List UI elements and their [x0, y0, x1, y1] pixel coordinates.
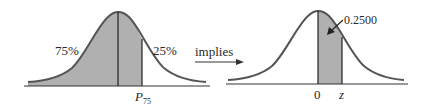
left-25-percent-label: 25% [153, 43, 177, 58]
implies-connector: implies [195, 44, 244, 65]
left-75-percent-label: 75% [55, 43, 79, 58]
right-bell-curve [228, 11, 404, 80]
right-area-label: 0.2500 [344, 13, 377, 27]
zero-tick-label: 0 [314, 87, 321, 102]
normal-distribution-diagram: 75% 25% P75 implies 0.2500 0 z [0, 0, 428, 108]
p75-tick-label: P75 [134, 89, 151, 106]
z-tick-label: z [338, 87, 344, 102]
right-shaded-area-0-to-z [318, 11, 342, 84]
p75-subscript: 75 [143, 97, 151, 106]
implies-label: implies [195, 44, 233, 59]
implies-arrow-head-icon [236, 59, 244, 65]
right-normal-curve-panel: 0.2500 0 z [226, 11, 408, 102]
left-normal-curve-panel: 75% 25% P75 [24, 12, 210, 106]
p75-main: P [134, 89, 143, 104]
